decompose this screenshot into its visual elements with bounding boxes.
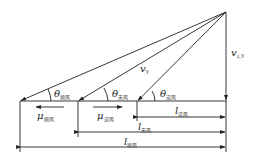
label-mu-tailwind: μ逆风 (97, 111, 114, 122)
vector-no-wind (79, 12, 226, 101)
label-theta-tailwind: θ逆风 (160, 89, 176, 100)
vector-headwind (21, 12, 226, 101)
label-l-headwind: l顺风 (124, 137, 137, 148)
label-v-zy: vz,Y (231, 48, 244, 59)
label-l-tailwind: l逆风 (175, 106, 188, 117)
label-theta-headwind: θ顺风 (54, 89, 70, 100)
vector-tailwind (138, 12, 226, 101)
label-theta-no-wind: θ无风 (112, 89, 128, 100)
label-l-no-wind: l无风 (138, 122, 151, 133)
arc-theta-headwind (48, 89, 51, 101)
label-v-y: vY (140, 64, 149, 75)
label-mu-headwind: μ顺风 (37, 111, 54, 122)
arc-theta-tailwind (152, 91, 155, 101)
arc-theta-no-wind (104, 88, 108, 101)
